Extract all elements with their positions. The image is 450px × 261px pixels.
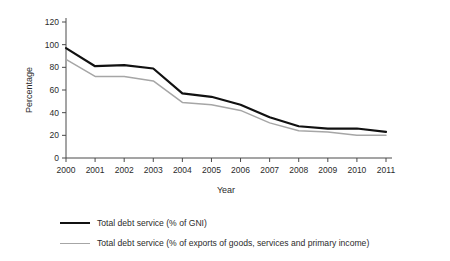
x-tick-label: 2001 <box>86 165 105 175</box>
y-tick-label: 60 <box>50 85 60 95</box>
x-axis-title: Year <box>217 185 235 195</box>
line-chart-svg: 020406080100120 200020012002200320042005… <box>0 0 450 205</box>
y-tick-label: 0 <box>54 153 59 163</box>
x-tick-label: 2006 <box>231 165 250 175</box>
y-tick-label: 20 <box>50 130 60 140</box>
x-tick-label: 2005 <box>202 165 221 175</box>
x-tick-label: 2000 <box>57 165 76 175</box>
chart-figure: 020406080100120 200020012002200320042005… <box>0 0 450 261</box>
x-tick-label: 2010 <box>347 165 366 175</box>
legend-item-exports: Total debt service (% of exports of good… <box>60 233 450 253</box>
y-axis: 020406080100120 <box>45 17 66 163</box>
y-tick-label: 100 <box>45 40 59 50</box>
x-tick-label: 2008 <box>289 165 308 175</box>
x-tick-label: 2004 <box>173 165 192 175</box>
x-tick-label: 2011 <box>377 165 396 175</box>
legend-label-gni: Total debt service (% of GNI) <box>97 219 207 228</box>
legend-line-swatch-black <box>60 222 90 224</box>
x-tick-label: 2009 <box>318 165 337 175</box>
series-line-gray <box>66 59 386 135</box>
data-series-group <box>66 48 386 135</box>
plot-area: 020406080100120 200020012002200320042005… <box>0 0 450 205</box>
y-tick-label: 80 <box>50 62 60 72</box>
x-axis: 2000200120022003200420052006200720082009… <box>57 158 396 175</box>
y-tick-label: 120 <box>45 17 59 27</box>
legend-line-swatch-gray <box>60 243 90 244</box>
y-tick-label: 40 <box>50 108 60 118</box>
chart-legend: Total debt service (% of GNI) Total debt… <box>60 213 450 253</box>
series-line-black <box>66 48 386 132</box>
y-axis-title: Percentage <box>24 67 34 113</box>
x-tick-label: 2007 <box>260 165 279 175</box>
legend-item-gni: Total debt service (% of GNI) <box>60 213 450 233</box>
x-tick-label: 2002 <box>115 165 134 175</box>
legend-label-exports: Total debt service (% of exports of good… <box>97 239 369 248</box>
x-tick-label: 2003 <box>144 165 163 175</box>
